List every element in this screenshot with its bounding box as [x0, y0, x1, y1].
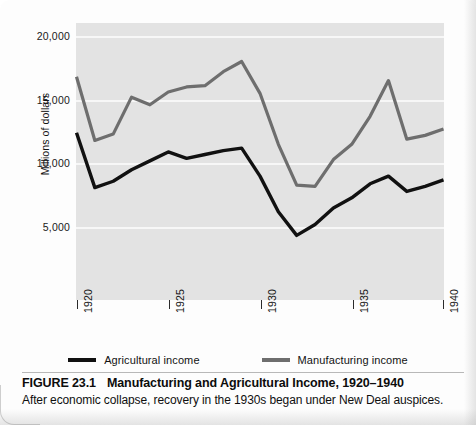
x-tick-mark-1925	[169, 300, 170, 309]
legend-label-manufacturing-income: Manufacturing income	[298, 354, 408, 366]
line-manufacturing-income	[77, 61, 444, 186]
x-tick-label-1930: 1930	[266, 289, 278, 313]
line-agricultural-income	[77, 133, 444, 236]
page-bottom-shading	[0, 409, 476, 425]
chart-legend: Agricultural income Manufacturing income	[0, 349, 476, 371]
x-tick-label-1935: 1935	[358, 289, 370, 313]
caption-divider	[22, 372, 464, 373]
chart-region: 20,000 15,000 10,000 5,000 Millions of d…	[0, 0, 476, 345]
y-axis-title-wrap: Millions of dollars	[28, 0, 48, 300]
y-axis-title: Millions of dollars	[39, 69, 51, 199]
figure-caption: FIGURE 23.1 Manufacturing and Agricultur…	[22, 376, 462, 407]
x-tick-mark-1940	[443, 300, 444, 309]
legend-line-swatch-icon	[68, 358, 96, 362]
x-tick-mark-1935	[353, 300, 354, 309]
legend-entry-manufacturing-income: Manufacturing income	[262, 354, 408, 366]
legend-entry-agricultural-income: Agricultural income	[68, 354, 199, 366]
figure-subtitle: After economic collapse, recovery in the…	[22, 393, 462, 407]
caption-title-row: FIGURE 23.1 Manufacturing and Agricultur…	[22, 376, 462, 390]
figure-card: 20,000 15,000 10,000 5,000 Millions of d…	[0, 0, 476, 425]
x-tick-mark-1920	[77, 300, 78, 309]
figure-title: Manufacturing and Agricultural Income, 1…	[107, 376, 404, 390]
x-tick-label-1920: 1920	[82, 289, 94, 313]
data-lines	[76, 23, 444, 300]
x-tick-label-1940: 1940	[448, 289, 460, 313]
x-tick-mark-1930	[261, 300, 262, 309]
x-tick-label-1925: 1925	[174, 289, 186, 313]
figure-number-label: FIGURE 23.1	[22, 376, 96, 390]
legend-label-agricultural-income: Agricultural income	[104, 354, 199, 366]
legend-line-swatch-icon	[262, 358, 290, 362]
